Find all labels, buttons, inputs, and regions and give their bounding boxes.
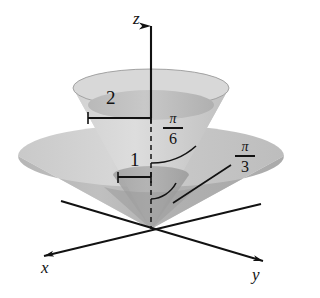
phi-pi-6-denominator: 6 (163, 130, 183, 147)
x-axis-label: x (41, 259, 49, 276)
z-axis-label: z (133, 10, 140, 27)
radius-2-label: 2 (106, 88, 116, 107)
phi-pi-3-fraction-bar (235, 155, 255, 157)
phi-pi-3-denominator: 3 (235, 158, 255, 175)
y-axis-label: y (252, 266, 260, 283)
phi-pi-6-numerator: π (163, 112, 183, 127)
phi-pi-3-numerator: π (235, 140, 255, 155)
phi-pi-6-label: π 6 (163, 112, 183, 147)
radius-1-label: 1 (130, 150, 140, 169)
phi-pi-6-fraction-bar (163, 127, 183, 129)
phi-pi-3-label: π 3 (235, 140, 255, 175)
